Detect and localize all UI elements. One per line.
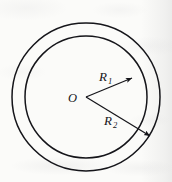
inner-radius-label-subscript: 1 [108, 76, 112, 86]
outer-radius-label-subscript: 2 [113, 120, 118, 130]
outer-radius-label-main: R [103, 113, 112, 128]
center-label: O [68, 91, 77, 105]
annulus-diagram: O R 1 R 2 [0, 0, 172, 182]
figure-canvas: O R 1 R 2 [0, 0, 172, 182]
outer-radius-line [86, 97, 150, 136]
inner-radius-label: R 1 [98, 69, 112, 86]
inner-radius-label-main: R [98, 69, 107, 84]
